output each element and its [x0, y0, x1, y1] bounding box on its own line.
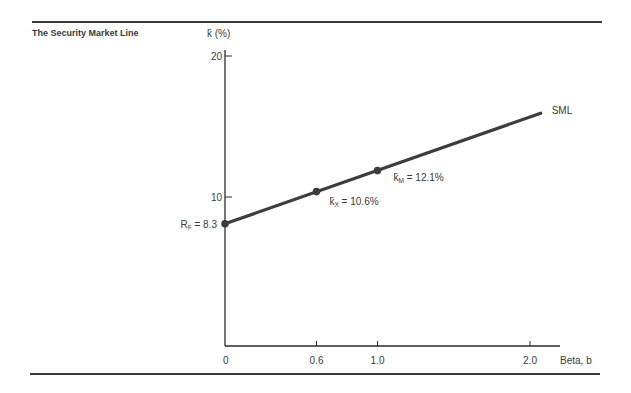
x-tick-label: 0.6: [310, 355, 324, 366]
data-point-risk-free: [221, 220, 229, 228]
point-label-risk-free: RF = 8.3: [180, 219, 217, 231]
data-point-security-x: [313, 188, 321, 196]
sml-line: [225, 113, 541, 224]
point-label-security-x: k̄X = 10.6%: [330, 196, 379, 208]
y-tick-label: 20: [211, 51, 223, 62]
y-tick-label: 10: [211, 192, 223, 203]
sml-chart: k̄ (%)102000.61.02.0Beta, bSMLRF = 8.3k̄…: [0, 0, 631, 393]
sml-label: SML: [552, 105, 573, 116]
x-tick-label: 0: [223, 355, 229, 366]
y-axis-label: k̄ (%): [207, 28, 230, 39]
x-tick-label: 1.0: [371, 355, 385, 366]
data-point-market: [374, 167, 382, 175]
x-axis-label: Beta, b: [560, 355, 592, 366]
bottom-rule: [30, 373, 600, 375]
x-tick-label: 2.0: [523, 355, 537, 366]
point-label-market: k̄M = 12.1%: [394, 172, 444, 184]
